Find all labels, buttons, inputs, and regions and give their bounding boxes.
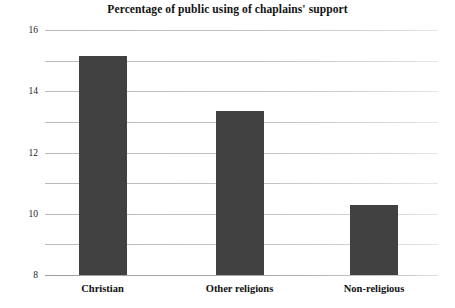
chart-title: Percentage of public using of chaplains'… bbox=[0, 3, 455, 15]
gridline: 16 bbox=[45, 30, 438, 31]
y-axis-tick-label: 10 bbox=[29, 209, 39, 219]
bar bbox=[79, 56, 127, 275]
y-axis-tick-label: 16 bbox=[29, 25, 39, 35]
y-axis-tick-label: 12 bbox=[29, 148, 39, 158]
x-axis-tick-label: Non-religious bbox=[344, 283, 404, 294]
axis-baseline: 0 bbox=[45, 275, 438, 276]
plot-area: 0246810121416 bbox=[45, 30, 438, 275]
y-axis-tick-label: 14 bbox=[29, 86, 39, 96]
y-axis-tick-label: 8 bbox=[33, 270, 38, 280]
bar bbox=[350, 205, 398, 275]
x-axis-tick-label: Other religions bbox=[206, 283, 274, 294]
bar-chart: Percentage of public using of chaplains'… bbox=[0, 0, 455, 308]
x-axis-tick-label: Christian bbox=[81, 283, 124, 294]
bar bbox=[216, 111, 264, 275]
